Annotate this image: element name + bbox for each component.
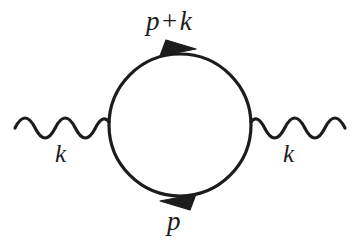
fermion-loop-circle	[109, 54, 251, 196]
right-photon-wavy-line	[251, 118, 345, 138]
top-momentum-label: p+k	[146, 8, 192, 35]
top-momentum-left-term: p	[146, 6, 160, 36]
top-momentum-right-term: k	[180, 6, 192, 36]
left-photon-wavy-line	[15, 118, 109, 138]
right-external-momentum-label: k	[283, 141, 294, 166]
top-momentum-operator: +	[160, 6, 180, 36]
left-external-momentum-label: k	[55, 141, 66, 166]
bottom-momentum-label: p	[167, 208, 181, 235]
feynman-diagram-canvas: p+k p k k	[0, 0, 353, 247]
